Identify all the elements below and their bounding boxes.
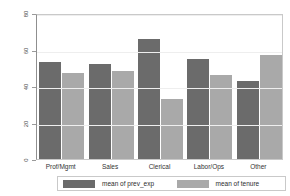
bar: [260, 55, 282, 159]
bar-chart-figure: percent 020406080 Prof/MgmtSalesClerical…: [0, 0, 290, 196]
gridline: [37, 52, 282, 53]
bar: [237, 81, 259, 159]
bar: [187, 59, 209, 159]
bars-layer: [37, 15, 282, 159]
gridline: [37, 88, 282, 89]
gridline: [37, 125, 282, 126]
bar: [62, 73, 84, 159]
bar: [138, 39, 160, 159]
bar: [89, 64, 111, 159]
legend-label-prev-exp: mean of prev_exp: [102, 180, 154, 187]
legend-swatch-prev-exp: [63, 180, 95, 188]
chart-legend: mean of prev_exp mean of tenure: [57, 176, 286, 191]
bar: [112, 71, 134, 159]
y-axis-tick-mark: [32, 160, 36, 161]
plot-area: [36, 14, 283, 160]
x-axis-tick-label: Other: [218, 163, 290, 170]
legend-label-tenure: mean of tenure: [216, 180, 260, 187]
bar: [161, 99, 183, 159]
legend-swatch-tenure: [177, 180, 209, 188]
legend-entry-prev-exp: mean of prev_exp: [58, 177, 172, 190]
bar: [39, 62, 61, 159]
legend-entry-tenure: mean of tenure: [172, 177, 286, 190]
gridline: [37, 15, 282, 16]
